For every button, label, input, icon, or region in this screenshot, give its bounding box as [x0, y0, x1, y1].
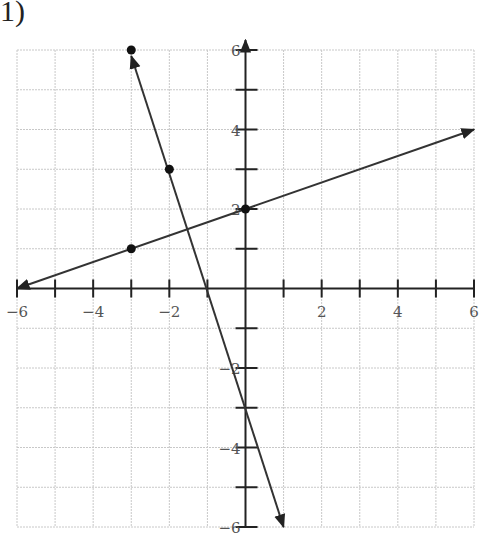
x-tick-label: −2 — [158, 303, 180, 321]
x-tick-label: 6 — [469, 303, 479, 321]
line-1-point — [165, 165, 174, 174]
x-tick-label: −6 — [6, 303, 28, 321]
x-tick-label: 4 — [393, 303, 403, 321]
y-tick-label: −4 — [218, 440, 240, 458]
y-tick-label: 4 — [231, 122, 241, 140]
x-tick-label: 2 — [317, 303, 327, 321]
x-tick-label: −4 — [82, 303, 104, 321]
y-tick-label: 6 — [231, 42, 241, 60]
line-2-point — [241, 205, 250, 214]
line-2-point — [127, 244, 136, 253]
coordinate-plane: −6−4−2246642−2−4−6 — [0, 0, 480, 546]
y-tick-label: 2 — [231, 201, 241, 219]
line-1-point — [127, 46, 136, 55]
y-tick-label: −6 — [218, 519, 240, 537]
